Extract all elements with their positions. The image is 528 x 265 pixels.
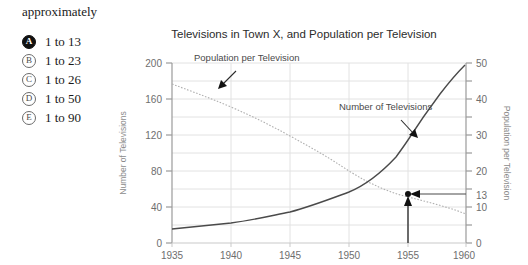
choice-label-a: 1 to 13	[45, 34, 81, 50]
y-tick-80: 80	[151, 166, 163, 177]
y2-tick-50: 50	[476, 58, 488, 69]
y-axis-right-ticks	[466, 63, 472, 243]
x-tick-1945: 1945	[279, 250, 302, 261]
x-tick-1950: 1950	[338, 250, 361, 261]
y2-tick-40: 40	[476, 94, 488, 105]
y2-tick-30: 30	[476, 130, 488, 141]
y2-tick-10: 10	[476, 202, 488, 213]
annotation-population-arrow	[218, 71, 236, 89]
choice-label-c: 1 to 26	[45, 72, 81, 88]
x-tick-1935: 1935	[161, 250, 184, 261]
choice-bubble-d[interactable]: D	[22, 92, 36, 106]
y-axis-left-ticks	[166, 63, 172, 243]
y-tick-40: 40	[151, 202, 163, 213]
question-stem: approximately	[22, 4, 97, 20]
annotation-number-of-televisions: Number of Televisions	[339, 101, 433, 112]
choice-label-d: 1 to 50	[45, 91, 81, 107]
x-tick-1940: 1940	[220, 250, 243, 261]
y2-tick-0: 0	[476, 238, 482, 249]
choice-label-e: 1 to 90	[45, 110, 81, 126]
highlight-point-marker	[405, 191, 411, 197]
y2-tick-13-highlight: 13	[476, 190, 488, 201]
x-tick-1955: 1955	[397, 250, 420, 261]
y-axis-left-title: Number of Televisions	[118, 111, 128, 194]
screenshot-root: approximately A 1 to 13 B 1 to 23 C 1 to…	[0, 0, 528, 265]
y-tick-200: 200	[145, 58, 162, 69]
y-axis-right-tick-labels: 50 40 30 20 13 10 0	[476, 58, 488, 249]
y-axis-right-title: Population per Television	[502, 106, 512, 201]
y-tick-0: 0	[156, 238, 162, 249]
chart-svg: 200 160 120 80 40 0	[104, 0, 528, 265]
x-axis-ticks	[172, 243, 466, 247]
series-number-of-televisions	[172, 65, 465, 229]
y-tick-160: 160	[145, 94, 162, 105]
choice-bubble-b[interactable]: B	[22, 54, 36, 68]
y2-tick-20: 20	[476, 166, 488, 177]
chart-figure: Televisions in Town X, and Population pe…	[104, 0, 528, 265]
choice-bubble-e[interactable]: E	[22, 111, 36, 125]
choice-bubble-a[interactable]: A	[22, 35, 36, 49]
annotation-population-per-television: Population per Television	[194, 52, 299, 63]
highlight-horizontal-arrow	[410, 190, 466, 198]
y-tick-120: 120	[145, 130, 162, 141]
highlight-vertical-arrow	[404, 196, 412, 243]
x-axis-tick-labels: 1935 1940 1945 1950 1955 1960	[161, 250, 476, 261]
x-tick-1960: 1960	[453, 250, 476, 261]
y-axis-left-tick-labels: 200 160 120 80 40 0	[145, 58, 162, 249]
choice-bubble-c[interactable]: C	[22, 73, 36, 87]
choice-label-b: 1 to 23	[45, 53, 81, 69]
